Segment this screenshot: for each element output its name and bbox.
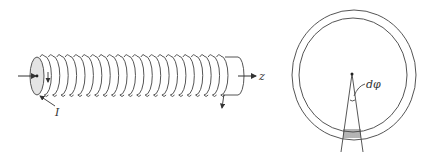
toroid — [292, 10, 416, 140]
solenoid — [30, 55, 244, 97]
current-label-pointer — [40, 96, 55, 106]
diagram-canvas: I z dφ — [0, 0, 433, 160]
z-axis-label: z — [258, 70, 265, 83]
toroid-outer-ring — [292, 10, 416, 140]
coil-turns — [40, 55, 228, 97]
current-label: I — [54, 106, 60, 119]
angle-label: dφ — [366, 78, 381, 91]
winding-segment-hatch — [344, 129, 360, 138]
